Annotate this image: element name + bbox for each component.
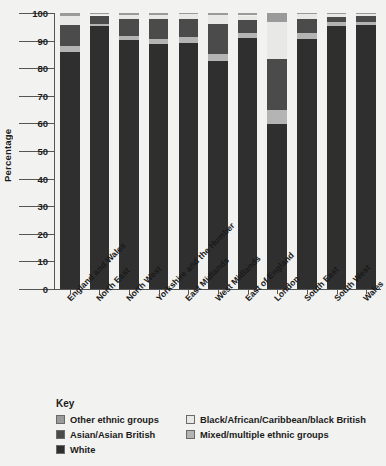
bar (238, 13, 258, 289)
bar-segment (208, 15, 228, 24)
bar (297, 13, 317, 289)
bar-segment (60, 46, 80, 52)
bar-segment (119, 13, 139, 15)
bar-segment (179, 13, 199, 14)
bar (208, 13, 228, 289)
bar-segment (297, 33, 317, 39)
y-axis-tick-label: 100 (32, 8, 48, 19)
legend-column-left: Other ethnic groupsAsian/Asian BritishWh… (56, 412, 186, 457)
bar-segment (208, 54, 228, 61)
legend-item-label: Black/African/Caribbean/black British (200, 415, 366, 425)
bar-segment (90, 16, 110, 24)
chart-legend: Key Other ethnic groupsAsian/Asian Briti… (56, 398, 381, 457)
legend-column-right: Black/African/Caribbean/black BritishMix… (186, 412, 366, 457)
x-axis-tick (248, 289, 249, 294)
bar-segment (60, 13, 80, 16)
legend-swatch-icon (56, 430, 65, 439)
bar-segment (356, 16, 376, 22)
bar-segment (90, 26, 110, 289)
y-axis-tick-label: 70 (37, 90, 48, 101)
bar-segment (179, 14, 199, 19)
bar-segment (60, 16, 80, 25)
stacked-bar-chart: Percentage 0102030405060708090100 Englan… (0, 0, 386, 466)
x-axis-tick (159, 289, 160, 294)
legend-swatch-icon (56, 445, 65, 454)
legend-item: Black/African/Caribbean/black British (186, 412, 366, 427)
bar-segment (327, 17, 347, 22)
x-axis-tick (188, 289, 189, 294)
bar-segment (208, 13, 228, 15)
x-axis-tick (337, 289, 338, 294)
bar-segment (60, 25, 80, 46)
bar-segment (327, 13, 347, 14)
legend-item-label: White (70, 445, 95, 455)
bar-segment (267, 110, 287, 124)
bar-segment (119, 40, 139, 289)
y-axis-tick-label: 50 (37, 146, 48, 157)
bar-segment (90, 14, 110, 15)
bar-segment (356, 25, 376, 289)
bar-segment (179, 19, 199, 37)
bar (90, 13, 110, 289)
bar-segment (149, 15, 169, 19)
x-axis-tick (99, 289, 100, 294)
bar-segment (327, 26, 347, 289)
bar (60, 13, 80, 289)
y-axis-tick-label: 10 (37, 256, 48, 267)
bar (267, 13, 287, 289)
bar-segment (90, 13, 110, 14)
legend-item-label: Mixed/multiple ethnic groups (200, 430, 329, 440)
x-axis-tick (277, 289, 278, 294)
bar-segment (238, 16, 258, 20)
legend-swatch-icon (186, 415, 195, 424)
bar-segment (238, 33, 258, 39)
x-axis-tick (307, 289, 308, 294)
bar (149, 13, 169, 289)
bar-segment (149, 44, 169, 289)
legend-item: Asian/Asian British (56, 427, 186, 442)
y-axis-tick-label: 80 (37, 63, 48, 74)
bar-segment (297, 14, 317, 18)
bar-segment (327, 14, 347, 16)
bar-segment (119, 36, 139, 40)
y-axis-tick-label: 90 (37, 35, 48, 46)
bar-segment (60, 52, 80, 289)
bar-segment (238, 13, 258, 15)
legend-item: Mixed/multiple ethnic groups (186, 427, 366, 442)
bar (327, 13, 347, 289)
legend-swatch-icon (186, 430, 195, 439)
bar (119, 13, 139, 289)
bar-segment (356, 22, 376, 25)
y-axis-title: Percentage (2, 100, 18, 210)
bar-segment (297, 19, 317, 33)
bar-segment (267, 59, 287, 110)
bar-segment (119, 19, 139, 36)
plot-area: 0102030405060708090100 (54, 13, 381, 290)
legend-item: White (56, 442, 186, 457)
legend-item-label: Other ethnic groups (70, 415, 159, 425)
bar-segment (179, 37, 199, 42)
y-axis-tick-label: 20 (37, 228, 48, 239)
x-axis-tick (366, 289, 367, 294)
legend-item-label: Asian/Asian British (70, 430, 155, 440)
bar-segment (238, 20, 258, 33)
bar-segment (327, 22, 347, 26)
bar-segment (149, 39, 169, 44)
y-axis-tick-label: 0 (43, 284, 48, 295)
bar-segment (267, 13, 287, 22)
x-axis-tick (218, 289, 219, 294)
bar-segment (267, 22, 287, 59)
bar-segment (297, 39, 317, 289)
x-axis-tick (70, 289, 71, 294)
legend-title: Key (56, 398, 381, 409)
legend-swatch-icon (56, 415, 65, 424)
bar-segment (297, 13, 317, 14)
y-axis-tick-label: 30 (37, 201, 48, 212)
bar-segment (208, 24, 228, 54)
legend-item: Other ethnic groups (56, 412, 186, 427)
x-axis-tick (129, 289, 130, 294)
y-axis-tick-label: 60 (37, 118, 48, 129)
bar-segment (149, 19, 169, 39)
bar-segment (238, 38, 258, 289)
y-axis-tick (19, 289, 55, 290)
